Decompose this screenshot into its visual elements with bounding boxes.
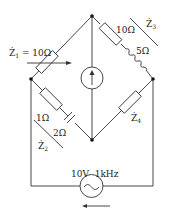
current-source xyxy=(81,67,103,89)
z1-label: Ż1 = 10Ω xyxy=(9,47,51,59)
node-bottom xyxy=(90,138,94,142)
ac-voltage-source xyxy=(80,175,110,209)
circuit-diagram: Ż1 = 10Ω 10Ω Ż3 5Ω 1Ω 2Ω Ż2 Ż4 10V 1kHz xyxy=(0,0,171,223)
z2-capacitor-label: 2Ω xyxy=(53,128,66,138)
node-right xyxy=(151,77,155,81)
z3-resistor-label: 10Ω xyxy=(116,25,135,35)
z2-resistor xyxy=(40,88,63,111)
z4-impedance xyxy=(119,91,142,114)
z3-inductor-label: 5Ω xyxy=(136,46,149,56)
arrow-icon xyxy=(66,61,72,65)
z3-label: Ż3 xyxy=(146,18,156,30)
node-top xyxy=(90,14,94,18)
source-label: 10V 1kHz xyxy=(71,169,119,179)
z2-label: Ż2 xyxy=(38,140,48,152)
z4-label: Ż4 xyxy=(131,112,141,124)
node-left xyxy=(29,77,33,81)
arrow-left-icon xyxy=(82,204,87,208)
z2-resistor-label: 1Ω xyxy=(36,113,49,123)
